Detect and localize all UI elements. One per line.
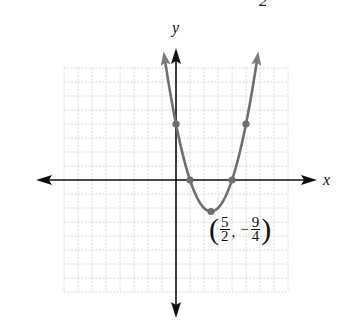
- y-axis: [171, 48, 181, 318]
- comma: ,: [232, 224, 236, 244]
- data-point: [172, 120, 179, 127]
- data-point: [186, 176, 193, 183]
- vertex-y-fraction: 9 4: [251, 216, 261, 243]
- cropped-text-fragment: 2: [259, 0, 268, 11]
- vertex-y-denominator: 4: [252, 230, 260, 243]
- data-point: [242, 120, 249, 127]
- vertex-x-denominator: 2: [221, 230, 229, 243]
- vertex-annotation: ( 5 2 , − 9 4 ): [209, 214, 271, 244]
- minus-sign: −: [240, 221, 248, 238]
- marked-points: [172, 120, 249, 215]
- coordinate-plane: [0, 0, 356, 328]
- vertex-x-fraction: 5 2: [220, 216, 230, 243]
- close-paren: ): [261, 214, 271, 244]
- data-point: [228, 176, 235, 183]
- open-paren: (: [209, 214, 219, 244]
- x-axis-label: x: [323, 171, 330, 189]
- y-axis-label: y: [172, 19, 179, 37]
